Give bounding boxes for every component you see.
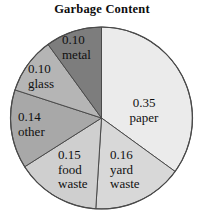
slice-label-paper: 0.35 paper <box>116 96 172 125</box>
slice-value-food-waste: 0.15 <box>58 148 106 163</box>
slice-name-glass: glass <box>28 77 76 92</box>
slice-value-glass: 0.10 <box>28 62 76 77</box>
slice-label-food-waste: 0.15 food waste <box>58 148 106 192</box>
slice-name-food-waste-2: waste <box>58 177 106 192</box>
slice-label-yard-waste: 0.16 yard waste <box>110 148 158 192</box>
slice-name-yard-waste-1: yard <box>110 163 158 178</box>
slice-name-food-waste-1: food <box>58 163 106 178</box>
chart-page: Garbage Content 0.35 paper 0.16 yard was… <box>0 0 204 222</box>
slice-name-other: other <box>18 125 70 140</box>
slice-label-metal: 0.10 metal <box>62 33 114 62</box>
slice-name-yard-waste-2: waste <box>110 177 158 192</box>
slice-value-other: 0.14 <box>18 110 70 125</box>
slice-value-metal: 0.10 <box>62 33 114 48</box>
slice-value-paper: 0.35 <box>116 96 172 111</box>
slice-name-metal: metal <box>62 48 114 63</box>
slice-name-paper: paper <box>116 111 172 126</box>
slice-value-yard-waste: 0.16 <box>110 148 158 163</box>
slice-label-glass: 0.10 glass <box>28 62 76 91</box>
slice-label-other: 0.14 other <box>18 110 70 139</box>
